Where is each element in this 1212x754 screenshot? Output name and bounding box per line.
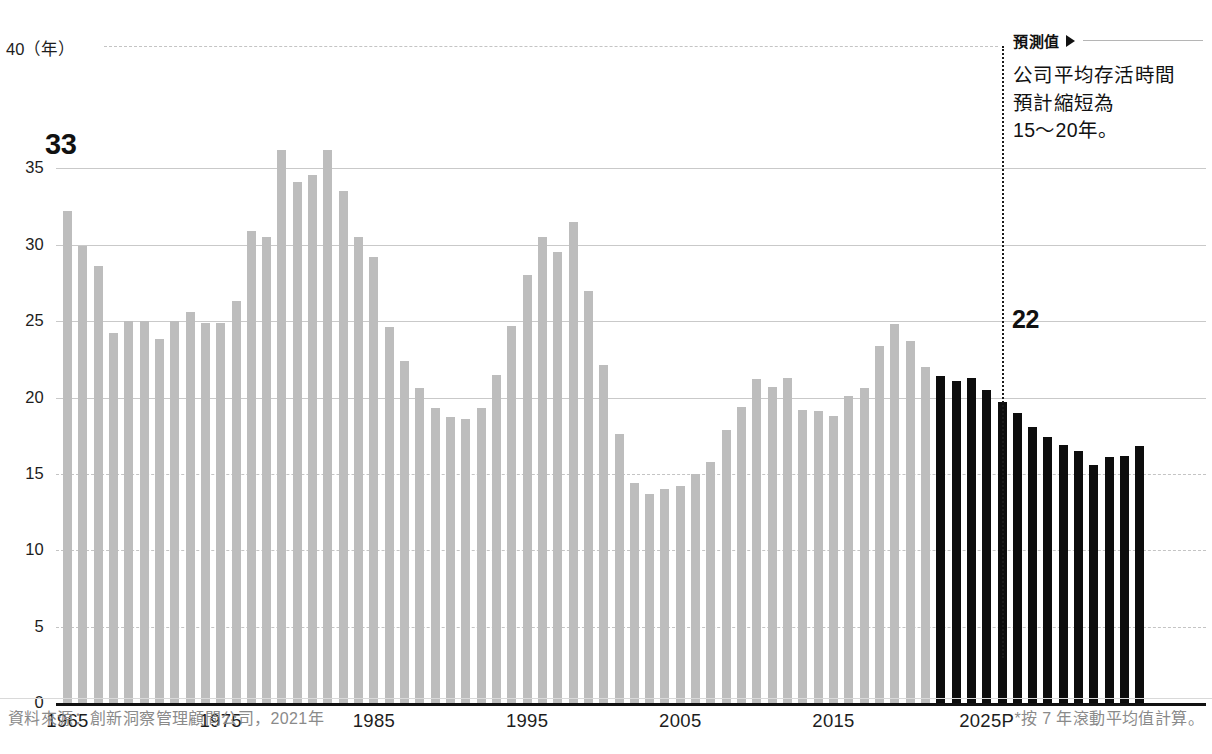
bar-2029 (1043, 437, 1052, 703)
bar-1983 (339, 191, 348, 703)
triangle-right-icon (1066, 35, 1075, 47)
bar-2005 (676, 486, 685, 703)
bar-2000 (599, 365, 608, 703)
y-tick-30: 30 (0, 235, 44, 254)
bar-2001 (615, 434, 624, 703)
y-axis-unit-label: 40（年） (6, 36, 75, 60)
annotation-line-2: 預計縮短為 (1013, 90, 1203, 118)
bar-1977 (247, 231, 256, 703)
chart-page: 05101520253035 1965197519851995200520152… (0, 0, 1212, 754)
bar-1986 (385, 327, 394, 703)
bar-2021 (921, 367, 930, 703)
annotation-line-1: 公司平均存活時間 (1013, 62, 1203, 90)
bar-2003 (645, 494, 654, 703)
bar-1987 (400, 361, 409, 703)
forecast-annotation-body: 公司平均存活時間 預計縮短為 15～20年。 (1013, 62, 1203, 145)
bar-1993 (492, 375, 501, 703)
bar-undefined (1089, 465, 1098, 703)
bar-2020 (906, 341, 915, 703)
footer-divider (0, 698, 1212, 699)
x-tick-1995: 1995 (506, 710, 548, 732)
callout-forecast-value: 22 (1012, 305, 1039, 334)
bar-2019 (890, 324, 899, 703)
forecast-divider-line (1002, 46, 1004, 658)
x-tick-2015: 2015 (812, 710, 854, 732)
bar-1975 (216, 323, 225, 703)
bar-1984 (354, 237, 363, 703)
bar-1967 (94, 266, 103, 703)
bar-2006 (691, 474, 700, 703)
forecast-annotation: 預測值 公司平均存活時間 預計縮短為 15～20年。 (1013, 30, 1203, 145)
annotation-line-3: 15～20年。 (1013, 117, 1203, 145)
bar-1992 (477, 408, 486, 703)
bar-1970 (140, 321, 149, 703)
bar-2013 (798, 410, 807, 703)
bar-1969 (124, 321, 133, 703)
bar-1965 (63, 211, 72, 703)
source-text: 資料來源：創新洞察管理顧問公司，2021年 (8, 705, 324, 729)
bar-undefined (1105, 457, 1114, 703)
bar-1976 (232, 301, 241, 703)
bar-1985 (369, 257, 378, 703)
bar-2015 (829, 416, 838, 703)
bar-2017 (860, 388, 869, 703)
bar-1988 (415, 388, 424, 703)
bar-1978 (262, 237, 271, 703)
bar-1999 (584, 291, 593, 703)
bar-1982 (323, 150, 332, 703)
y-tick-15: 15 (0, 464, 44, 483)
bar-1972 (170, 321, 179, 703)
bar-2002 (630, 483, 639, 703)
bar-1968 (109, 333, 118, 703)
bar-undefined (1059, 445, 1068, 703)
bar-1974 (201, 323, 210, 703)
bar-2024 (967, 378, 976, 703)
bar-2025 (982, 390, 991, 703)
y-tick-20: 20 (0, 388, 44, 407)
bar-2007 (706, 462, 715, 703)
x-tick-2025P: 2025P (959, 710, 1014, 732)
callout-start-value: 33 (45, 128, 76, 161)
bar-2009 (737, 407, 746, 703)
bar-2018 (875, 346, 884, 703)
bar-1989 (431, 408, 440, 703)
bar-2012 (783, 378, 792, 703)
bar-1991 (461, 419, 470, 703)
annotation-rule (1083, 40, 1204, 41)
bar-2016 (844, 396, 853, 703)
bar-1973 (186, 312, 195, 703)
bar-2023 (952, 381, 961, 703)
y-tick-25: 25 (0, 311, 44, 330)
bar-2004 (660, 489, 669, 703)
footnote-text: *按 7 年滾動平均值計算。 (1014, 705, 1204, 729)
x-tick-1985: 1985 (353, 710, 395, 732)
bar-undefined (1135, 446, 1144, 703)
bar-2028 (1028, 427, 1037, 703)
bar-1995 (523, 275, 532, 703)
forecast-label: 預測值 (1013, 30, 1060, 51)
y-tick-35: 35 (0, 158, 44, 177)
y-tick-5: 5 (0, 617, 44, 636)
bar-1996 (538, 237, 547, 703)
bar-2014 (814, 411, 823, 703)
bar-1998 (569, 222, 578, 703)
bar-2008 (722, 430, 731, 703)
bar-1979 (277, 150, 286, 703)
bar-2010 (752, 379, 761, 703)
bar-1981 (308, 175, 317, 704)
bar-2011 (768, 387, 777, 703)
bar-2027 (1013, 413, 1022, 703)
bar-1997 (553, 252, 562, 703)
bar-undefined (1074, 451, 1083, 703)
bar-1990 (446, 417, 455, 703)
bar-undefined (1120, 456, 1129, 703)
bar-1966 (78, 246, 87, 703)
y-tick-10: 10 (0, 540, 44, 559)
x-tick-2005: 2005 (659, 710, 701, 732)
forecast-annotation-heading: 預測值 (1013, 30, 1203, 51)
bar-1971 (155, 339, 164, 703)
bar-2022 (936, 376, 945, 703)
bar-1994 (507, 326, 516, 703)
bar-1980 (293, 182, 302, 703)
